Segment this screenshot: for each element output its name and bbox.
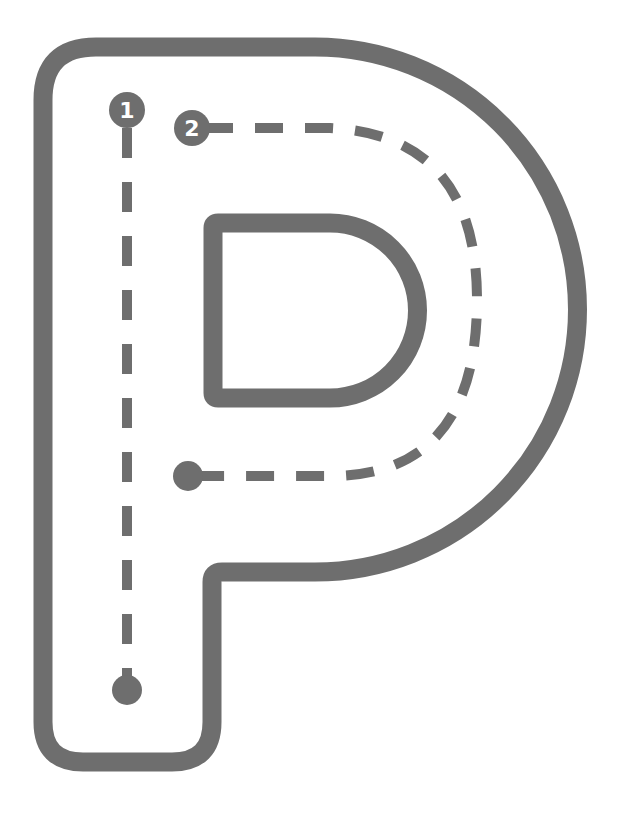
- step-number-2: 2: [184, 116, 199, 141]
- letter-p-tracing: 1 2: [0, 0, 620, 825]
- start-marker-2: 2: [174, 110, 210, 146]
- start-marker-1: 1: [109, 92, 145, 128]
- letter-counter: [213, 223, 418, 398]
- end-dot-2: [173, 461, 203, 491]
- trace-path-2: [190, 128, 477, 476]
- step-number-1: 1: [119, 98, 134, 123]
- end-dot-1: [112, 675, 142, 705]
